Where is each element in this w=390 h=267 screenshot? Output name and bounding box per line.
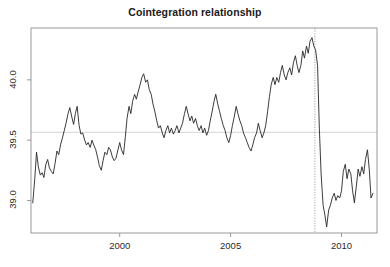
x-axis-tick-label: 2005 (211, 240, 251, 251)
chart-figure: Cointegration relationship 39.039.540.0 … (0, 0, 390, 267)
x-axis-tick-label: 2000 (100, 240, 140, 251)
plot-region (27, 28, 377, 237)
y-axis-tick-label: 40.0 (7, 64, 18, 94)
y-axis-tick-label: 39.5 (7, 125, 18, 155)
y-axis-tick-label: 39.0 (7, 185, 18, 215)
plot-canvas (0, 0, 390, 267)
x-axis-ticks (120, 233, 342, 237)
x-axis-tick-label: 2010 (322, 240, 362, 251)
y-axis-ticks (27, 80, 31, 201)
